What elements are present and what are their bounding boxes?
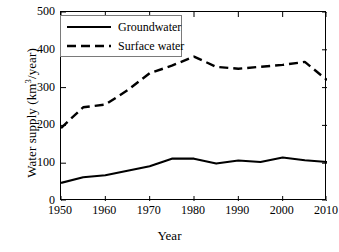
series-line-groundwater (61, 158, 327, 183)
chart-figure: Water supply (km3/year) 0100200300400500… (0, 0, 339, 252)
y-tick-label-500: 500 (15, 5, 55, 17)
chart-legend: Groundwater Surface water (60, 15, 182, 57)
y-tick-label-300: 300 (15, 81, 55, 93)
y-tick-label-400: 400 (15, 43, 55, 55)
y-tick-label-200: 200 (15, 118, 55, 130)
legend-label-surface-water: Surface water (118, 40, 184, 52)
legend-line-sample-dashed (66, 40, 112, 52)
x-tick-label-2000: 2000 (260, 204, 304, 216)
x-tick-label-1980: 1980 (171, 204, 215, 216)
x-tick-label-1990: 1990 (215, 204, 259, 216)
legend-item-surface-water: Surface water (61, 36, 181, 56)
x-tick-label-1950: 1950 (38, 204, 82, 216)
legend-line-sample-solid (66, 21, 112, 33)
x-tick-label-2010: 2010 (304, 204, 339, 216)
x-tick-label-1970: 1970 (127, 204, 171, 216)
x-axis-label: Year (0, 228, 339, 244)
y-tick-label-100: 100 (15, 156, 55, 168)
legend-item-groundwater: Groundwater (61, 17, 181, 37)
data-series-group (61, 57, 327, 183)
x-tick-label-1960: 1960 (82, 204, 126, 216)
series-line-surface-water (61, 57, 327, 128)
legend-label-groundwater: Groundwater (118, 21, 181, 33)
